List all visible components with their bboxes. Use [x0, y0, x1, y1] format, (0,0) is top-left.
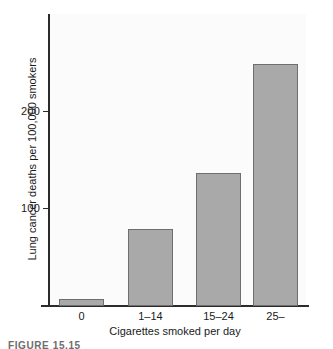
x-tick-label-15-24: 15–24: [196, 310, 241, 322]
bar-category-0: [59, 299, 104, 306]
bar-category-1-14: [128, 229, 173, 306]
bar-category-15-24: [196, 173, 241, 306]
x-tick-label-1-14: 1–14: [128, 310, 173, 322]
bar-category-25-plus: [253, 64, 298, 306]
x-tick-label-25-plus: 25–: [253, 310, 298, 322]
figure-container: 200 100 0 1–14 15–24 25– Cigarettes smok…: [0, 0, 333, 349]
y-tick-mark-100: [43, 208, 50, 209]
x-axis-title: Cigarettes smoked per day: [41, 325, 309, 337]
y-axis-title: Lung cancer deaths per 100,000 smokers: [26, 34, 38, 284]
y-axis-line: [48, 14, 50, 307]
y-tick-mark-200: [43, 111, 50, 112]
x-tick-label-0: 0: [59, 310, 104, 322]
figure-caption: FIGURE 15.15: [8, 340, 81, 349]
